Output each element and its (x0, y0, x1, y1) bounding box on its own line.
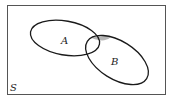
venn-diagram: A B S (0, 0, 171, 101)
set-a-label: A (60, 35, 68, 46)
set-b-label: B (110, 56, 118, 67)
universe-frame (8, 6, 166, 95)
universe-label: S (10, 82, 17, 93)
